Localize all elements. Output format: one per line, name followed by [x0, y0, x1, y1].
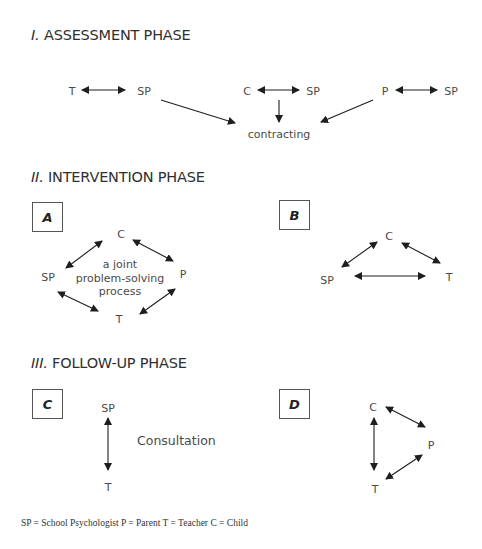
arrow-layer: [0, 0, 482, 549]
double-arrow-icon: [386, 407, 425, 427]
double-arrow-icon: [402, 243, 440, 263]
arrow-icon: [321, 100, 373, 122]
double-arrow-icon: [342, 242, 377, 267]
double-arrow-icon: [66, 241, 102, 268]
double-arrow-icon: [140, 289, 175, 314]
double-arrow-icon: [133, 240, 173, 261]
arrow-icon: [161, 100, 235, 123]
double-arrow-icon: [58, 292, 98, 311]
double-arrow-icon: [386, 455, 422, 479]
